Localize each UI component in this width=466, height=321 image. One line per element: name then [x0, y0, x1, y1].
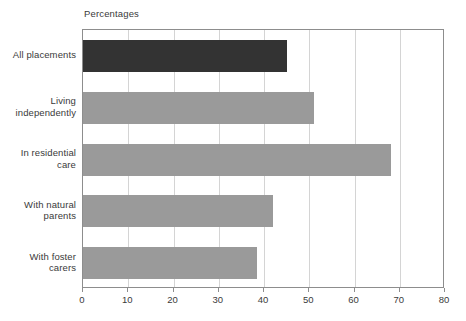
category-label-line: care [0, 159, 76, 171]
x-tick-label-30: 30 [212, 294, 223, 305]
category-label-line: independently [0, 107, 76, 119]
x-tick-label-70: 70 [393, 294, 404, 305]
category-label-line: carers [0, 262, 76, 274]
category-label-3: With naturalparents [0, 199, 76, 222]
category-label-4: With fostercarers [0, 251, 76, 274]
chart-title: Percentages [84, 8, 139, 19]
bar-2 [83, 144, 391, 176]
x-tick-label-50: 50 [303, 294, 314, 305]
category-label-line: With natural [0, 199, 76, 211]
x-tick-label-60: 60 [348, 294, 359, 305]
x-tick-mark-40 [263, 288, 264, 292]
bar-0 [83, 40, 287, 72]
x-tick-mark-0 [82, 288, 83, 292]
x-tick-mark-70 [399, 288, 400, 292]
x-tick-label-20: 20 [167, 294, 178, 305]
x-tick-mark-50 [308, 288, 309, 292]
category-label-line: Living [0, 95, 76, 107]
x-tick-label-40: 40 [258, 294, 269, 305]
gridline-70 [400, 30, 401, 287]
category-label-2: In residentialcare [0, 147, 76, 170]
category-label-0: All placements [0, 49, 76, 61]
x-tick-mark-30 [218, 288, 219, 292]
category-label-line: In residential [0, 147, 76, 159]
x-tick-mark-60 [354, 288, 355, 292]
category-label-1: Livingindependently [0, 95, 76, 118]
bar-4 [83, 247, 257, 279]
category-label-line: parents [0, 210, 76, 222]
x-tick-label-80: 80 [439, 294, 450, 305]
x-tick-label-0: 0 [79, 294, 84, 305]
x-tick-mark-10 [127, 288, 128, 292]
x-tick-mark-20 [173, 288, 174, 292]
category-label-line: All placements [0, 49, 76, 61]
bar-3 [83, 195, 273, 227]
x-tick-label-10: 10 [122, 294, 133, 305]
plot-area [82, 29, 444, 288]
category-label-line: With foster [0, 251, 76, 263]
bar-1 [83, 92, 314, 124]
bar-chart: Percentages All placementsLivingindepend… [0, 0, 466, 321]
x-tick-mark-80 [444, 288, 445, 292]
